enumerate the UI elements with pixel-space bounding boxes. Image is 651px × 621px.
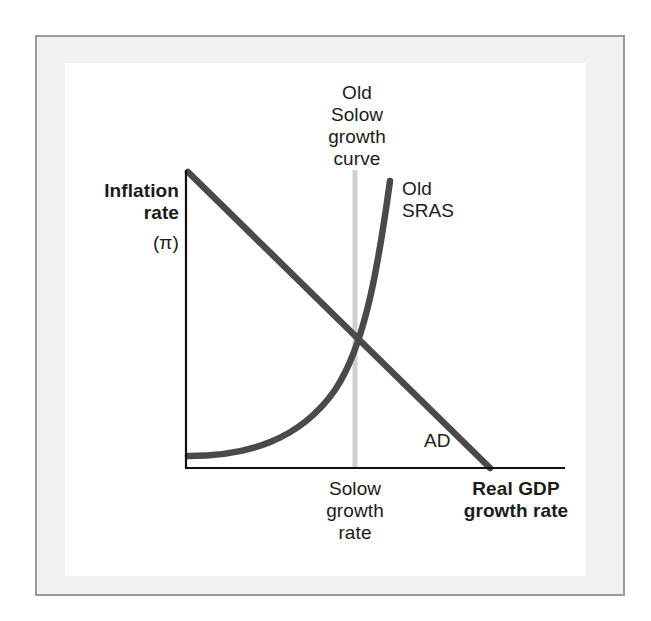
ad-label: AD (424, 430, 451, 452)
solow-growth-rate-label: Solow growth rate (276, 478, 434, 544)
old-solow-growth-curve-label: Old Solow growth curve (271, 82, 443, 170)
y-axis-symbol: (π) (153, 232, 179, 254)
y-axis-title-line1: Inflation (104, 180, 179, 201)
curve-old-sras (188, 181, 390, 456)
x-axis-title: Real GDP growth rate (430, 478, 602, 522)
y-axis-title: Inflationrate (104, 180, 179, 224)
figure-root: Inflationrate (π) Old Solow growth curve… (0, 0, 651, 621)
plot-area: Inflationrate (π) Old Solow growth curve… (0, 0, 651, 621)
y-axis-title-line2: rate (144, 202, 179, 223)
old-sras-label: Old SRAS (402, 178, 454, 222)
